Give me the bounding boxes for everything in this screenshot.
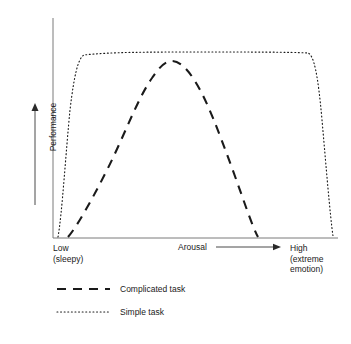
x-axis-high-line1: High [290, 243, 307, 253]
x-axis-high-line3: emotion) [290, 264, 323, 274]
x-axis-low-label: Low(sleepy) [53, 243, 83, 264]
x-axis-low-line1: Low [53, 243, 69, 253]
x-axis-high-line2: (extreme [290, 254, 324, 264]
performance-arrow-head [32, 103, 39, 111]
arousal-arrow-head [273, 244, 281, 250]
y-axis-label: Performance [48, 103, 59, 152]
x-axis-low-line2: (sleepy) [53, 254, 83, 264]
complicated-task-curve [68, 61, 258, 237]
legend-label-complicated-task: Complicated task [120, 284, 185, 295]
y-axis-label-wrapper: Performance [46, 82, 60, 172]
simple-task-curve [58, 52, 333, 237]
x-axis-high-label: High(extremeemotion) [290, 243, 324, 275]
x-axis-label: Arousal [178, 242, 207, 253]
legend-label-simple-task: Simple task [120, 307, 164, 318]
